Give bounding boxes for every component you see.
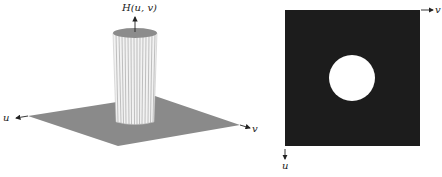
u-axis-label-right: u — [282, 160, 288, 171]
v-axis-label-right: v — [435, 4, 441, 15]
z-axis-label: H(u, v) — [121, 2, 157, 13]
surface-plot: H(u, v) u v — [3, 2, 258, 146]
u-axis-label-left: u — [3, 112, 9, 123]
filter-image: v u — [282, 4, 441, 171]
figure: H(u, v) u v v u — [0, 0, 442, 177]
v-axis-arrow-left — [240, 125, 250, 128]
white-disk — [329, 55, 375, 101]
cylinder — [113, 28, 157, 125]
u-axis-arrow-left — [16, 116, 28, 118]
v-axis-label-left: v — [252, 123, 258, 134]
